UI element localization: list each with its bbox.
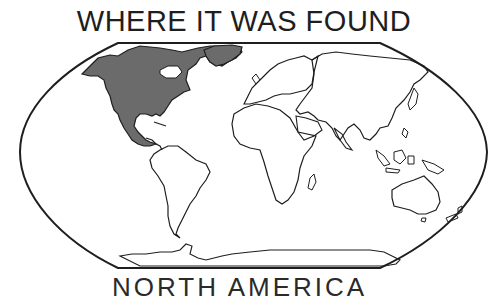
south-america bbox=[150, 146, 210, 238]
australia bbox=[392, 176, 440, 214]
europe bbox=[244, 56, 318, 104]
antarctica bbox=[120, 244, 400, 266]
greenland-highlight bbox=[204, 45, 242, 66]
africa bbox=[232, 104, 316, 204]
map-caption-partial: NORTH AMERICA bbox=[112, 272, 367, 300]
